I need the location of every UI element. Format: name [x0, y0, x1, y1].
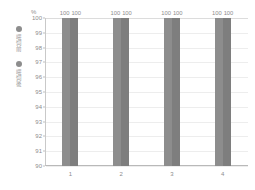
legend-label-after-feeding: 喂饲後 [16, 69, 22, 87]
y-axis-tick-label: 100 [32, 15, 42, 21]
bar-value-label: 100 [71, 10, 81, 16]
bar-value-labels: 100100 [205, 10, 241, 16]
x-axis-tick-label: 1 [69, 171, 72, 177]
bar-value-label: 100 [212, 10, 222, 16]
legend-dot-marker-icon [16, 26, 22, 32]
legend-entry-before-feeding: 喂饲前 [6, 26, 32, 52]
y-axis-tick-label: 94 [35, 104, 42, 110]
bar [172, 18, 180, 166]
y-axis-tick-label: 92 [35, 133, 42, 139]
bar-value-label: 100 [110, 10, 120, 16]
bars-layer: 100100100100100100100100 [45, 18, 248, 166]
x-axis-tick-label: 2 [119, 171, 122, 177]
bar [121, 18, 129, 166]
y-axis-tick-label: 93 [35, 119, 42, 125]
bar-group [215, 18, 231, 166]
bar-chart-figure: 喂饲前 喂饲後 % 10099989796959493929190 100100… [0, 0, 255, 190]
bar-value-label: 100 [173, 10, 183, 16]
bar-value-labels: 100100 [154, 10, 190, 16]
chart-legend: 喂饲前 喂饲後 [6, 26, 32, 96]
bar-group [62, 18, 78, 166]
x-axis-ticks: 1234 [45, 166, 248, 184]
bar [62, 18, 70, 166]
x-axis-tick-label: 4 [221, 171, 224, 177]
x-axis-tick-label: 3 [170, 171, 173, 177]
y-axis-tick-label: 96 [35, 74, 42, 80]
bar [215, 18, 223, 166]
bar-value-label: 100 [161, 10, 171, 16]
y-axis-tick-label: 99 [35, 30, 42, 36]
bar-group [164, 18, 180, 166]
bar-value-label: 100 [60, 10, 70, 16]
bar-value-label: 100 [224, 10, 234, 16]
bar [164, 18, 172, 166]
y-axis-tick-label: 98 [35, 45, 42, 51]
y-axis-tick-label: 90 [35, 163, 42, 169]
y-axis-tick-label: 91 [35, 148, 42, 154]
bar-value-label: 100 [122, 10, 132, 16]
bar-group [113, 18, 129, 166]
bar [113, 18, 121, 166]
legend-label-before-feeding: 喂饲前 [16, 34, 22, 52]
legend-dot-marker-icon [16, 61, 22, 67]
y-axis-tick-label: 97 [35, 59, 42, 65]
bar-value-labels: 100100 [52, 10, 88, 16]
bar [70, 18, 78, 166]
bar [223, 18, 231, 166]
legend-entry-after-feeding: 喂饲後 [6, 61, 32, 87]
y-axis-tick-label: 95 [35, 89, 42, 95]
bar-value-labels: 100100 [103, 10, 139, 16]
